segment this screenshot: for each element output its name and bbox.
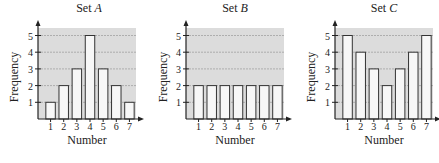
y-tick-label: 4: [325, 47, 330, 58]
x-axis-label: Number: [364, 133, 403, 148]
x-tick-label: 1: [345, 121, 350, 132]
title-prefix: Set: [371, 1, 389, 15]
y-axis-label: Frequency: [304, 52, 319, 103]
chart-title: Set C: [371, 1, 397, 16]
x-tick-label: 7: [424, 121, 429, 132]
x-tick-label: 3: [371, 121, 376, 132]
x-tick-label: 5: [398, 121, 403, 132]
x-tick-label: 6: [411, 121, 416, 132]
bar: [422, 36, 431, 120]
bar: [343, 36, 352, 120]
bar: [409, 52, 418, 119]
x-tick-label: 2: [358, 121, 363, 132]
bar: [369, 69, 378, 119]
y-tick-label: 5: [325, 30, 330, 41]
bar: [395, 69, 404, 119]
bar: [382, 86, 391, 119]
y-tick-label: 1: [325, 97, 330, 108]
y-tick-label: 3: [325, 63, 330, 74]
bar: [356, 52, 365, 119]
chart-set-c: Set C Frequency Number 123451234567: [0, 0, 439, 163]
title-variable: C: [389, 1, 397, 15]
y-tick-label: 2: [325, 80, 330, 91]
x-tick-label: 4: [385, 121, 390, 132]
